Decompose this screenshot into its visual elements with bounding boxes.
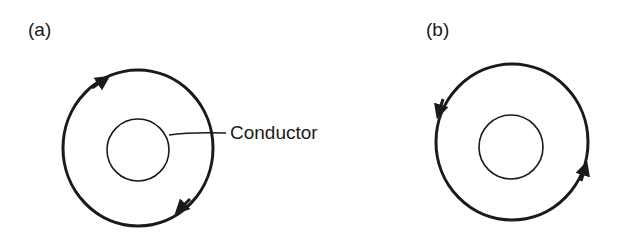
panel-b: (b): [426, 19, 588, 220]
conductor-label: Conductor: [230, 122, 318, 143]
conductor-circle: [107, 119, 169, 181]
magnetic-field-loop: [436, 64, 588, 220]
panel-a-label: (a): [28, 19, 51, 40]
conductor-circle: [479, 115, 543, 179]
panel-a: (a) Conductor: [28, 19, 318, 226]
magnetic-field-loop: [63, 70, 213, 226]
diagram: (a) Conductor (b): [0, 0, 620, 235]
callout-leader-line: [169, 133, 226, 135]
panel-b-label: (b): [426, 19, 449, 40]
